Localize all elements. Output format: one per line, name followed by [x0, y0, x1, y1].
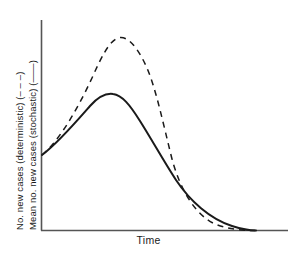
stochastic-curve	[42, 94, 256, 231]
y-axis-label-group: No. new cases (deterministic) (– – –) Me…	[0, 0, 40, 238]
x-axis-label: Time	[41, 234, 256, 246]
y-axis-label-stochastic: Mean no. new cases (stochastic) (——)	[28, 60, 38, 230]
plot-area	[0, 0, 292, 258]
epidemic-curve-figure: No. new cases (deterministic) (– – –) Me…	[0, 0, 292, 258]
y-axis-label-deterministic: No. new cases (deterministic) (– – –)	[15, 72, 25, 230]
